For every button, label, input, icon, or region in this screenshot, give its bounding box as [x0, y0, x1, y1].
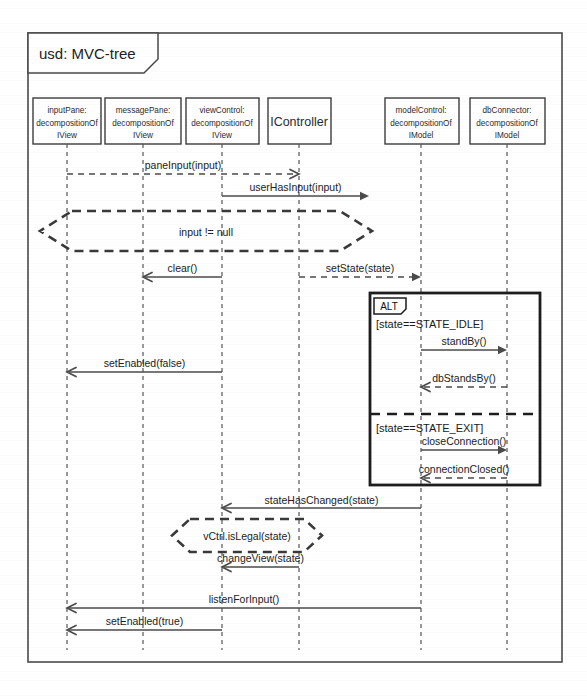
lifeline-label-dbConnector-1: decompositionOf — [476, 119, 538, 128]
lifeline-label-dbConnector-0: dbConnector: — [482, 106, 531, 115]
lifeline-label-viewControl-0: viewControl: — [199, 106, 244, 115]
message-label-0: paneInput(input) — [145, 159, 221, 171]
message-label-3: setState(state) — [326, 262, 394, 274]
alt-guard-1: [state==STATE_EXIT] — [376, 422, 483, 434]
lifeline-label-messagePane-1: decompositionOf — [112, 119, 174, 128]
message-label-8: connectionClosed() — [419, 463, 509, 475]
message-label-4: standBy() — [442, 335, 487, 347]
lifeline-label-viewControl-2: IView — [212, 131, 232, 140]
alt-operator-label: ALT — [380, 301, 398, 312]
message-label-10: changeView(state) — [217, 552, 304, 564]
lifeline-label-dbConnector-2: IModel — [495, 131, 520, 140]
lifeline-label-messagePane-2: IView — [133, 131, 153, 140]
lifeline-label-inputPane-1: decompositionOf — [36, 119, 98, 128]
lifeline-label-modelControl-0: modelControl: — [396, 106, 447, 115]
condition-label-1: vCtrl.isLegal(state) — [203, 530, 291, 542]
message-label-2: clear() — [168, 262, 198, 274]
condition-label-0: input != null — [179, 226, 233, 238]
lifeline-label-modelControl-2: IModel — [409, 131, 434, 140]
lifeline-label-modelControl-1: decompositionOf — [390, 119, 452, 128]
message-label-7: closeConnection() — [422, 435, 507, 447]
message-label-9: stateHasChanged(state) — [265, 494, 379, 506]
lifeline-label-viewControl-1: decompositionOf — [191, 119, 253, 128]
frame-title: usd: MVC-tree — [39, 45, 136, 62]
message-label-12: setEnabled(true) — [106, 615, 184, 627]
message-label-6: dbStandsBy() — [432, 372, 496, 384]
message-label-11: listenForInput() — [209, 593, 280, 605]
lifeline-label-IController-0: IController — [270, 115, 328, 129]
sequence-diagram-svg: usd: MVC-tree inputPane:decompositionOfI… — [0, 0, 587, 699]
message-label-1: userHasInput(input) — [249, 181, 341, 193]
message-label-5: setEnabled(false) — [104, 357, 186, 369]
sequence-diagram-canvas: usd: MVC-tree inputPane:decompositionOfI… — [0, 0, 587, 699]
alt-guard-0: [state==STATE_IDLE] — [376, 318, 483, 330]
lifeline-label-inputPane-0: inputPane: — [47, 106, 86, 115]
lifeline-label-inputPane-2: IView — [57, 131, 77, 140]
lifeline-label-messagePane-0: messagePane: — [116, 106, 171, 115]
